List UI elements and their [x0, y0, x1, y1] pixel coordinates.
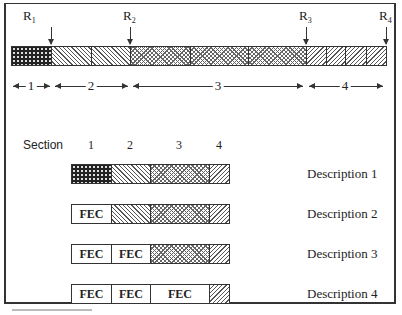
fec-cell: FEC [72, 285, 112, 303]
arrow-right-icon [44, 83, 50, 89]
section-header: Section [23, 138, 63, 152]
arrow-right-icon [122, 83, 128, 89]
fec-cell: FEC [151, 285, 210, 303]
row-cell-diagonal [210, 285, 229, 303]
description-2-label: Description 2 [307, 206, 377, 222]
bar-segment-diagonal [367, 47, 386, 65]
bar-segment-diagonal [346, 47, 367, 65]
arrow-left-icon [55, 83, 61, 89]
bar-segment-crosshatch [191, 47, 249, 65]
marker-r3-label: R3 [299, 8, 312, 25]
span-label-1: 1 [26, 78, 37, 94]
fec-cell: FEC [112, 285, 151, 303]
bar-segment-crosshatch [249, 47, 307, 65]
packet-bar [11, 46, 387, 66]
description-4-bar: FEC FEC FEC [71, 284, 230, 304]
bar-segment-hatch [52, 47, 92, 65]
marker-r4-label: R4 [379, 8, 392, 25]
marker-r3-arrow-icon [306, 27, 307, 44]
row-cell-crosshatch [151, 165, 210, 183]
marker-r4-arrow-icon [386, 27, 387, 44]
section-spans: 1 2 3 4 [0, 78, 402, 96]
fec-cell: FEC [72, 245, 112, 263]
bar-segment-dots [12, 47, 52, 65]
arrow-left-icon [309, 83, 315, 89]
row-cell-crosshatch [151, 245, 210, 263]
row-cell-diagonal [210, 165, 229, 183]
span-label-2: 2 [86, 78, 97, 94]
section-number-1: 1 [88, 138, 94, 153]
row-cell-dots [72, 165, 112, 183]
arrow-right-icon [297, 83, 303, 89]
row-cell-hatch [112, 165, 151, 183]
row-cell-diagonal [210, 245, 229, 263]
caption-underline [12, 309, 92, 311]
bar-segment-diagonal [327, 47, 346, 65]
bar-segment-crosshatch [131, 47, 191, 65]
description-1-label: Description 1 [307, 166, 377, 182]
span-label-4: 4 [340, 78, 351, 94]
marker-r2-label: R2 [123, 8, 136, 25]
bar-segment-hatch [92, 47, 131, 65]
description-1-bar [71, 164, 230, 184]
marker-r1-label: R1 [23, 8, 36, 25]
row-cell-diagonal [210, 205, 229, 223]
section-number-3: 3 [176, 138, 182, 153]
fec-cell: FEC [112, 245, 151, 263]
span-label-3: 3 [213, 78, 224, 94]
section-number-4: 4 [216, 138, 222, 153]
row-cell-hatch [112, 205, 151, 223]
arrow-left-icon [133, 83, 139, 89]
marker-r2-arrow-icon [130, 27, 131, 44]
section-number-2: 2 [127, 138, 133, 153]
row-cell-crosshatch [151, 205, 210, 223]
arrow-left-icon [13, 83, 19, 89]
description-4-label: Description 4 [307, 286, 377, 302]
description-3-label: Description 3 [307, 246, 377, 262]
fec-cell: FEC [72, 205, 112, 223]
bar-segment-diagonal [307, 47, 327, 65]
arrow-right-icon [377, 83, 383, 89]
description-3-bar: FEC FEC [71, 244, 230, 264]
marker-r1-arrow-icon [51, 27, 52, 44]
description-2-bar: FEC [71, 204, 230, 224]
